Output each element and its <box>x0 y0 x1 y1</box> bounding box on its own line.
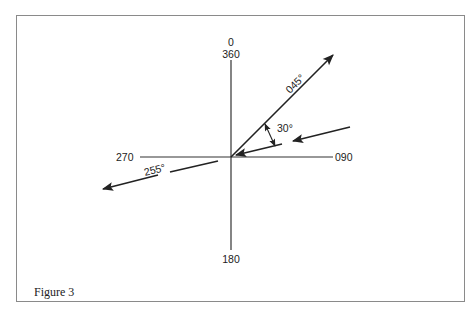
label-angle-30: 30° <box>277 122 293 134</box>
label-north-360: 360 <box>222 48 240 60</box>
label-vector-255: 255° <box>143 161 167 178</box>
label-north-0: 0 <box>228 36 234 48</box>
vector-045 <box>231 55 333 157</box>
label-west-270: 270 <box>116 151 134 163</box>
vector-255-segment-outer <box>103 175 158 189</box>
angle-arc-30 <box>265 124 275 146</box>
vector-255-segment-inner <box>170 161 218 172</box>
label-south-180: 180 <box>222 253 240 265</box>
label-east-090: 090 <box>335 151 353 163</box>
incoming-vector-outer <box>293 127 350 141</box>
figure-caption: Figure 3 <box>34 285 74 300</box>
label-vector-045: 045° <box>283 72 307 96</box>
